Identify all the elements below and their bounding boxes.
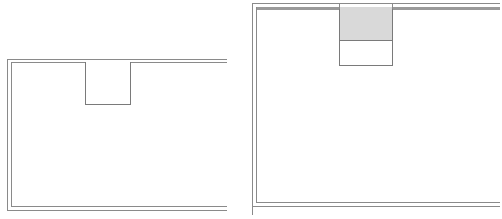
right-room-outline — [0, 0, 502, 219]
right-niche-right-edge — [392, 3, 393, 9]
right-outer-bottom-wall — [252, 206, 500, 207]
right-inner-bottom-wall — [256, 202, 500, 203]
right-niche-box — [339, 7, 393, 66]
right-inner-left-wall — [256, 7, 257, 203]
right-outer-top-wall — [252, 3, 500, 4]
right-niche-left-edge — [339, 3, 340, 9]
right-niche-shaded-fill — [340, 7, 392, 41]
right-outer-left-wall — [252, 3, 253, 215]
